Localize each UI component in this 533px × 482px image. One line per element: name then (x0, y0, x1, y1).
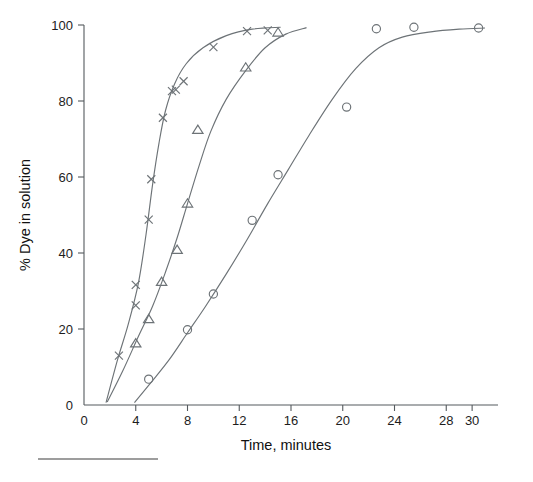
y-tick-label: 40 (59, 246, 73, 261)
marker-circle (145, 375, 153, 383)
x-tick-label: 0 (80, 413, 87, 428)
x-tick-label: 28 (439, 413, 453, 428)
fit-curves (106, 27, 485, 402)
x-tick-label: 24 (387, 413, 401, 428)
x-tick-label: 30 (465, 413, 479, 428)
marker-triangle (193, 125, 203, 133)
marker-x (147, 175, 155, 183)
marker-x (180, 77, 188, 85)
y-tick-label: 0 (66, 398, 73, 413)
marker-x (209, 43, 217, 51)
x-axis-title: Time, minutes (241, 437, 332, 453)
y-tick-label: 60 (59, 170, 73, 185)
series-x (115, 26, 272, 359)
marker-circle (372, 25, 380, 33)
x-tick-label: 8 (184, 413, 191, 428)
axes: 020406080100048121620242830 (51, 18, 498, 429)
x-tick-label: 4 (132, 413, 139, 428)
chart-canvas: 020406080100048121620242830 Time, minute… (0, 0, 533, 482)
x-tick-label: 12 (232, 413, 246, 428)
y-tick-label: 80 (59, 94, 73, 109)
x-tick-label: 16 (284, 413, 298, 428)
marker-circle (248, 216, 256, 224)
series-circle (145, 23, 483, 383)
marker-circle (274, 171, 282, 179)
fit-curve-triangle (107, 28, 306, 402)
y-tick-label: 100 (51, 18, 73, 33)
marker-x (115, 352, 123, 360)
axis-titles: Time, minutes% Dye in solution (17, 159, 331, 453)
marker-circle (343, 103, 351, 111)
data-markers (115, 23, 483, 383)
figure-container: 020406080100048121620242830 Time, minute… (0, 0, 533, 482)
y-tick-label: 20 (59, 322, 73, 337)
series-triangle (131, 28, 284, 347)
y-axis-title: % Dye in solution (17, 159, 33, 271)
x-tick-label: 20 (336, 413, 350, 428)
marker-triangle (273, 28, 283, 36)
marker-circle (410, 23, 418, 31)
